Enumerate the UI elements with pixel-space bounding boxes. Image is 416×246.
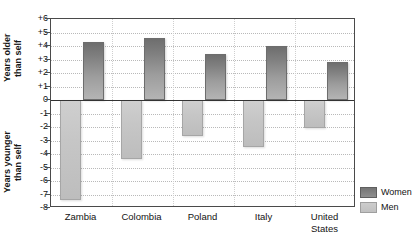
bar-men-poland (182, 100, 203, 136)
x-axis-label-italy: Italy (233, 211, 294, 223)
y-axis-lower-title: Years younger than self (2, 118, 26, 206)
x-axis-label-united-states: United States (294, 211, 355, 234)
gridline (51, 141, 354, 142)
age-perception-bar-chart: Years older than self Years younger than… (0, 0, 416, 246)
gridline (51, 33, 354, 34)
gridline (51, 181, 354, 182)
bar-women-italy (266, 46, 287, 100)
x-axis-label-zambia: Zambia (50, 211, 111, 223)
category-separator (112, 19, 113, 206)
bar-men-united-states (304, 100, 325, 128)
gridline (51, 168, 354, 169)
category-separator (173, 19, 174, 206)
legend-item-women: Women (360, 186, 416, 198)
category-separator (295, 19, 296, 206)
x-axis-category-labels: ZambiaColombiaPolandItalyUnited States (50, 211, 355, 243)
bar-women-poland (205, 54, 226, 100)
bar-women-colombia (144, 38, 165, 100)
bar-men-italy (243, 100, 264, 147)
zero-baseline (51, 100, 354, 101)
bar-men-colombia (121, 100, 142, 159)
bar-women-united-states (327, 62, 348, 100)
chart-legend: WomenMen (360, 186, 416, 216)
plot-area (50, 18, 355, 207)
bar-women-zambia (83, 42, 104, 100)
gridline (51, 195, 354, 196)
gridline (51, 154, 354, 155)
bar-men-zambia (60, 100, 81, 200)
y-axis-upper-title: Years older than self (2, 20, 26, 96)
legend-swatch-men (360, 202, 377, 213)
legend-label: Women (381, 187, 412, 197)
legend-label: Men (381, 202, 399, 212)
legend-swatch-women (360, 187, 377, 198)
legend-item-men: Men (360, 201, 416, 213)
category-separator (234, 19, 235, 206)
x-axis-label-poland: Poland (172, 211, 233, 223)
y-tick-mark (45, 207, 50, 208)
x-axis-label-colombia: Colombia (111, 211, 172, 223)
